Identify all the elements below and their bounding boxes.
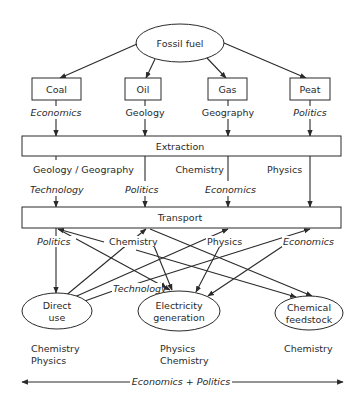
direct-use-ellipse [22, 293, 92, 329]
transport-factor-politics: Politics [37, 236, 70, 247]
arrow-root-to-oil [146, 59, 155, 78]
chemical-label-line2: feedstock [286, 314, 333, 325]
chemical-science-1: Chemistry [284, 343, 333, 354]
transport-factor-technology: Technology [113, 283, 167, 294]
peat-label: Peat [300, 84, 321, 95]
extraction-label: Extraction [156, 141, 205, 152]
use-node-electricity-generation: Electricity generation [138, 291, 220, 331]
extraction-science-chemistry: Chemistry [175, 164, 224, 175]
electricity-generation-ellipse [138, 291, 220, 331]
extraction-science-geology-geography: Geology / Geography [33, 164, 134, 175]
direct-use-science-2: Physics [31, 355, 66, 366]
arrow-root-to-gas [207, 58, 226, 78]
electricity-label-line2: generation [153, 312, 205, 323]
peat-factor-label: Politics [293, 107, 326, 118]
transport-factor-physics: Physics [207, 236, 242, 247]
gas-label: Gas [218, 84, 236, 95]
transport-factor-economics: Economics [283, 236, 334, 247]
fossil-fuel-label: Fossil fuel [157, 38, 204, 49]
coal-factor-label: Economics [31, 107, 82, 118]
use-node-direct-use: Direct use [22, 293, 92, 329]
direct-use-label-line2: use [49, 312, 66, 323]
extraction-factor-politics: Politics [125, 184, 158, 195]
extraction-node: Extraction [22, 136, 341, 156]
use-node-chemical-feedstock: Chemical feedstock [275, 296, 343, 330]
extraction-science-physics: Physics [267, 164, 302, 175]
fossil-fuel-diagram: Fossil fuel Coal Oil Gas Peat Economics … [0, 0, 361, 411]
direct-use-label-line1: Direct [43, 300, 72, 311]
fuel-node-coal: Coal [32, 78, 81, 100]
oil-label: Oil [137, 84, 150, 95]
transport-node: Transport [22, 207, 341, 228]
extraction-factor-economics: Economics [205, 184, 256, 195]
electricity-science-1: Physics [160, 343, 195, 354]
transport-label: Transport [157, 212, 203, 223]
arrow-root-to-peat [224, 43, 306, 78]
footer-label: Economics + Politics [132, 376, 230, 387]
electricity-label-line1: Electricity [155, 300, 203, 311]
root-node-fossil-fuel: Fossil fuel [136, 24, 224, 62]
gas-factor-label: Geography [202, 107, 255, 118]
transport-factor-chemistry: Chemistry [109, 236, 158, 247]
coal-label: Coal [46, 84, 67, 95]
extraction-factor-technology: Technology [30, 184, 84, 195]
arrow-economics-to-electricity [208, 244, 286, 296]
electricity-science-2: Chemistry [160, 355, 209, 366]
fuel-node-gas: Gas [208, 78, 247, 100]
direct-use-science-1: Chemistry [31, 343, 80, 354]
chemical-label-line1: Chemical [287, 302, 331, 313]
arrow-root-to-coal [60, 44, 137, 78]
fuel-node-peat: Peat [290, 78, 330, 100]
oil-factor-label: Geology [125, 107, 165, 118]
fuel-node-oil: Oil [125, 78, 161, 100]
